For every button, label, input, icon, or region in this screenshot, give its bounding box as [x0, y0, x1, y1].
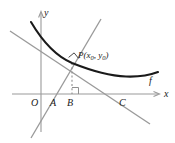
axes-group — [12, 12, 160, 133]
figure-canvas: y x O A B C f P(x0, y0) — [0, 0, 175, 143]
right-angle-marker-at-b — [72, 88, 79, 95]
p-label-close-paren: ) — [105, 50, 109, 60]
y-axis-label: y — [43, 7, 49, 18]
point-label-o: O — [31, 97, 38, 108]
point-label-p: P(x0, y0) — [77, 50, 109, 61]
point-label-b: B — [67, 97, 73, 108]
point-label-c: C — [119, 97, 126, 108]
x-axis-label: x — [163, 88, 169, 99]
svg-text:P(x0, y0): P(x0, y0) — [77, 50, 109, 61]
curve-label-f: f — [149, 75, 153, 86]
geometry-figure: y x O A B C f P(x0, y0) — [0, 0, 175, 143]
point-label-a: A — [49, 97, 57, 108]
